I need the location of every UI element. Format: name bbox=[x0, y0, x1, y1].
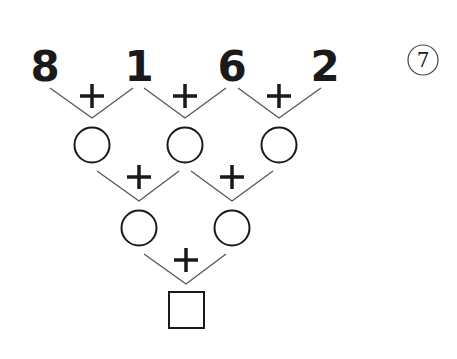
top-number-1: 8 bbox=[30, 42, 59, 91]
top-number-3: 6 bbox=[217, 42, 246, 91]
addition-pyramid: 8 1 6 2 7 bbox=[0, 0, 457, 359]
plus-icon bbox=[267, 84, 291, 108]
plus-icon bbox=[220, 165, 244, 189]
row2-plus-signs bbox=[127, 165, 244, 189]
blank-circle-5[interactable] bbox=[215, 211, 250, 246]
blank-circle-4[interactable] bbox=[122, 211, 157, 246]
blank-circle-1[interactable] bbox=[75, 128, 110, 163]
row2-connectors bbox=[97, 171, 273, 201]
blank-circle-2[interactable] bbox=[168, 128, 203, 163]
top-number-4: 2 bbox=[310, 42, 339, 91]
answer-box[interactable] bbox=[169, 292, 204, 328]
plus-icon bbox=[127, 165, 151, 189]
top-number-2: 1 bbox=[124, 42, 153, 91]
plus-icon bbox=[174, 248, 198, 272]
row1-blanks bbox=[75, 128, 297, 163]
plus-icon bbox=[80, 84, 104, 108]
problem-number-badge: 7 bbox=[408, 45, 438, 75]
row2-blanks bbox=[122, 211, 250, 246]
plus-icon bbox=[173, 84, 197, 108]
problem-number: 7 bbox=[417, 48, 430, 72]
blank-circle-3[interactable] bbox=[262, 128, 297, 163]
